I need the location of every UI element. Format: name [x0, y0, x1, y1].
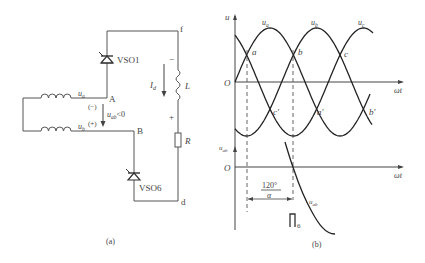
y-axis-lower-arrow-icon	[233, 146, 237, 152]
circuit-diagram: VSO1 L R − + Id VSO6 ua ub A	[23, 24, 191, 246]
node-d-label: d	[181, 197, 186, 207]
thyristor-vso1-icon	[99, 52, 113, 63]
node-B-label: B	[137, 126, 143, 136]
source-ua-label: ua	[78, 89, 85, 99]
x-axis-upper-label: ωt	[394, 86, 403, 95]
angle-120-label: 120°	[262, 181, 277, 190]
pulse-label: 6	[297, 222, 301, 230]
origin-upper-label: O	[224, 78, 231, 88]
thyristor-vso1-label: VSO1	[117, 55, 140, 65]
resistor-label: R	[184, 136, 191, 146]
voltage-arrow-icon	[101, 104, 106, 127]
polarity-plus: (+)	[88, 120, 97, 128]
inductor-l-icon	[176, 70, 180, 100]
point-b-prime-label: b′	[369, 107, 377, 117]
wire-left-neutral	[23, 98, 41, 131]
node-A-label: A	[109, 94, 116, 104]
point-a-prime-label: a′	[317, 107, 325, 117]
point-a-label: a	[252, 47, 257, 57]
curve-uab-label: uab	[309, 198, 318, 207]
origin-lower-label: O	[224, 163, 231, 173]
inductor-plus: +	[169, 112, 174, 122]
y-axis-upper-arrow-icon	[233, 14, 237, 20]
phase-uc-label: uc	[358, 18, 365, 28]
waveform-diagram: u O ωt ua ub uc a b c c′ a′ b′ uab O ωt …	[219, 12, 404, 249]
thyristor-vso6-icon	[126, 169, 140, 180]
caption-b: (b)	[312, 240, 322, 249]
node-f-label: f	[180, 24, 183, 34]
phase-ua-label: ua	[262, 18, 269, 28]
point-c-label: c	[344, 49, 348, 59]
phase-ub-label: ub	[311, 18, 318, 28]
y-axis-lower-label: uab	[219, 144, 228, 153]
resistor-r-icon	[175, 133, 181, 147]
y-axis-upper-label: u	[225, 12, 230, 22]
voltage-uab-label: uab<0	[107, 110, 125, 120]
figure-canvas: VSO1 L R − + Id VSO6 ua ub A	[0, 0, 425, 263]
current-arrow-icon	[162, 64, 167, 97]
source-ub-label: ub	[78, 122, 85, 132]
curve-uab	[285, 142, 335, 234]
caption-a: (a)	[106, 237, 115, 246]
trigger-pulse-icon	[290, 214, 295, 227]
inductor-label: L	[184, 81, 190, 91]
point-b-label: b	[298, 47, 303, 57]
point-c-prime-label: c′	[273, 107, 280, 117]
x-axis-lower-label: ωt	[394, 171, 403, 180]
x-axis-upper-arrow-icon	[398, 80, 404, 84]
thyristor-vso6-label: VSO6	[139, 183, 162, 193]
inductor-minus: −	[169, 54, 174, 64]
current-label: Id	[149, 80, 157, 91]
polarity-minus: (−)	[88, 103, 97, 111]
winding-b-icon	[41, 127, 71, 131]
winding-a-icon	[41, 94, 71, 98]
x-axis-lower-arrow-icon	[398, 165, 404, 169]
